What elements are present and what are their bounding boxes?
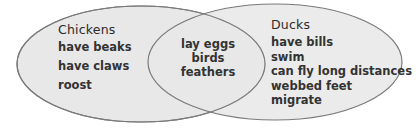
ducks-title: Ducks: [271, 17, 310, 32]
chickens-item: roost: [58, 78, 92, 92]
chickens-title: Chickens: [58, 22, 116, 37]
ducks-item: can fly long distances: [271, 64, 412, 78]
intersection-item: birds: [168, 51, 248, 65]
ducks-item: migrate: [271, 93, 322, 107]
chickens-item: have beaks: [58, 40, 132, 54]
chickens-item: have claws: [58, 59, 129, 73]
ducks-item: have bills: [271, 35, 333, 49]
intersection-item: lay eggs: [168, 37, 248, 51]
intersection-item: feathers: [168, 65, 248, 79]
ducks-item: swim: [271, 50, 304, 64]
ducks-item: webbed feet: [271, 79, 352, 93]
